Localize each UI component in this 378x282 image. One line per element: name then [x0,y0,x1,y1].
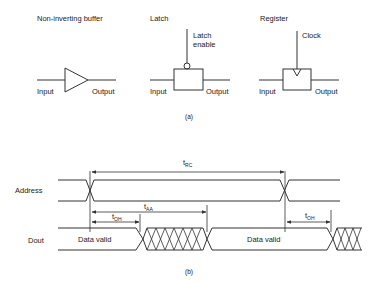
buffer-triangle-icon [65,68,88,92]
toh-dimension-2: tOH [287,210,331,232]
buffer-title: Non-inverting buffer [37,14,103,23]
caption-b: (b) [185,268,193,276]
buffer-symbol-group: Non-inverting buffer Input Output [37,14,116,96]
dout-data-valid-label-2: Data valid [247,235,280,244]
latch-box [174,69,203,90]
latch-enable-bubble-icon [184,63,190,69]
address-waveform [58,171,340,232]
memory-timing-diagram: Non-inverting buffer Input Output Latch … [0,0,378,282]
toh-label-2: tOH [305,211,315,221]
toh-label-1: tOH [112,212,122,222]
trc-label: tRC [183,158,193,168]
dout-signal-label: Dout [28,236,45,245]
latch-enable-label-line1: Latch [193,31,211,40]
register-title: Register [260,14,288,23]
toh-dimension-1: tOH [92,212,140,232]
latch-input-label: Input [150,87,168,96]
clock-edge-triangle-icon [293,69,301,76]
latch-title: Latch [150,14,168,23]
latch-output-label: Output [206,87,229,96]
buffer-input-label: Input [37,87,55,96]
latch-enable-label-line2: enable [193,40,216,49]
buffer-output-label: Output [92,87,115,96]
latch-symbol-group: Latch Latch enable Input Output [150,14,230,96]
caption-a: (a) [185,113,193,121]
dout-data-valid-label-1: Data valid [78,235,111,244]
register-output-label: Output [315,87,338,96]
register-input-label: Input [259,87,277,96]
trc-dimension: tRC [92,158,284,172]
register-symbol-group: Register Clock Input Output [259,14,339,96]
register-clock-label: Clock [302,31,321,40]
register-box [283,69,311,90]
taa-label: tAA [144,202,153,212]
address-signal-label: Address [15,186,43,195]
dout-waveform: Data valid Data valid [58,228,362,250]
